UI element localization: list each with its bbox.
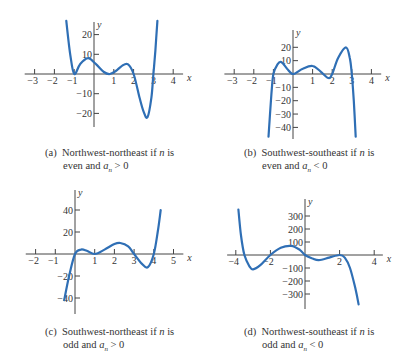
y-tick-label: 20 [281, 42, 291, 53]
x-tick-label: −2 [47, 75, 58, 86]
y-tick-label: 20 [63, 227, 73, 238]
x-tick-label: −3 [227, 75, 238, 86]
y-tick-label: 20 [82, 29, 92, 40]
x-tick-label: 2 [337, 256, 342, 267]
y-tick-label: −40 [275, 122, 291, 133]
panel-d: −4−224−300−200−100100200300xy (d) Northw… [204, 179, 408, 358]
x-tick-label: 4 [171, 75, 176, 86]
y-axis-label: y [77, 187, 83, 198]
y-axis-label: y [295, 27, 301, 38]
x-tick-label: 1 [92, 255, 97, 266]
y-axis-label: y [96, 19, 102, 30]
x-tick-label: 4 [369, 75, 374, 86]
y-tick-label: 200 [288, 224, 303, 235]
x-tick-label: 5 [171, 255, 176, 266]
x-axis-label: x [186, 252, 192, 263]
y-tick-label: −300 [282, 289, 303, 300]
y-axis-label: y [307, 196, 313, 207]
x-tick-label: 1 [111, 75, 116, 86]
y-tick-label: −10 [76, 88, 92, 99]
y-tick-label: 40 [63, 205, 73, 216]
panel-c: −2−112345−40−202040xy (c) Southwest-nort… [0, 179, 204, 358]
caption-c: (c) Southwest-northeast if n is odd and … [45, 325, 174, 356]
x-axis-label: x [386, 253, 392, 264]
y-tick-label: 300 [288, 211, 303, 222]
x-tick-label: −4 [228, 256, 239, 267]
x-tick-label: −2 [246, 75, 257, 86]
x-tick-label: −1 [48, 255, 59, 266]
y-tick-label: −200 [282, 276, 303, 287]
y-tick-label: −20 [275, 95, 291, 106]
caption-b: (b) Southwest-southeast if n is even and… [244, 146, 374, 177]
x-axis-label: x [384, 72, 390, 83]
x-tick-label: −3 [27, 75, 38, 86]
y-tick-label: −100 [282, 263, 303, 274]
caption-d: (d) Northwest-southeast if n is odd and … [244, 325, 374, 356]
caption-a: (a) Northwest-northeast if n is even and… [45, 146, 174, 177]
x-tick-label: 4 [372, 256, 377, 267]
panel-b: −3−2−11234−40−30−20−101020xy (b) Southwe… [204, 0, 408, 179]
x-tick-label: 1 [310, 75, 315, 86]
y-tick-label: −20 [76, 108, 92, 119]
y-tick-label: −30 [275, 109, 291, 120]
x-tick-label: −1 [67, 75, 78, 86]
x-tick-label: 2 [112, 255, 117, 266]
y-tick-label: −10 [275, 82, 291, 93]
polynomial-curve [66, 21, 157, 118]
x-tick-label: −2 [28, 255, 39, 266]
x-axis-label: x [186, 72, 192, 83]
panel-a: −3−2−11234−20−101020xy (a) Northwest-nor… [0, 0, 204, 179]
